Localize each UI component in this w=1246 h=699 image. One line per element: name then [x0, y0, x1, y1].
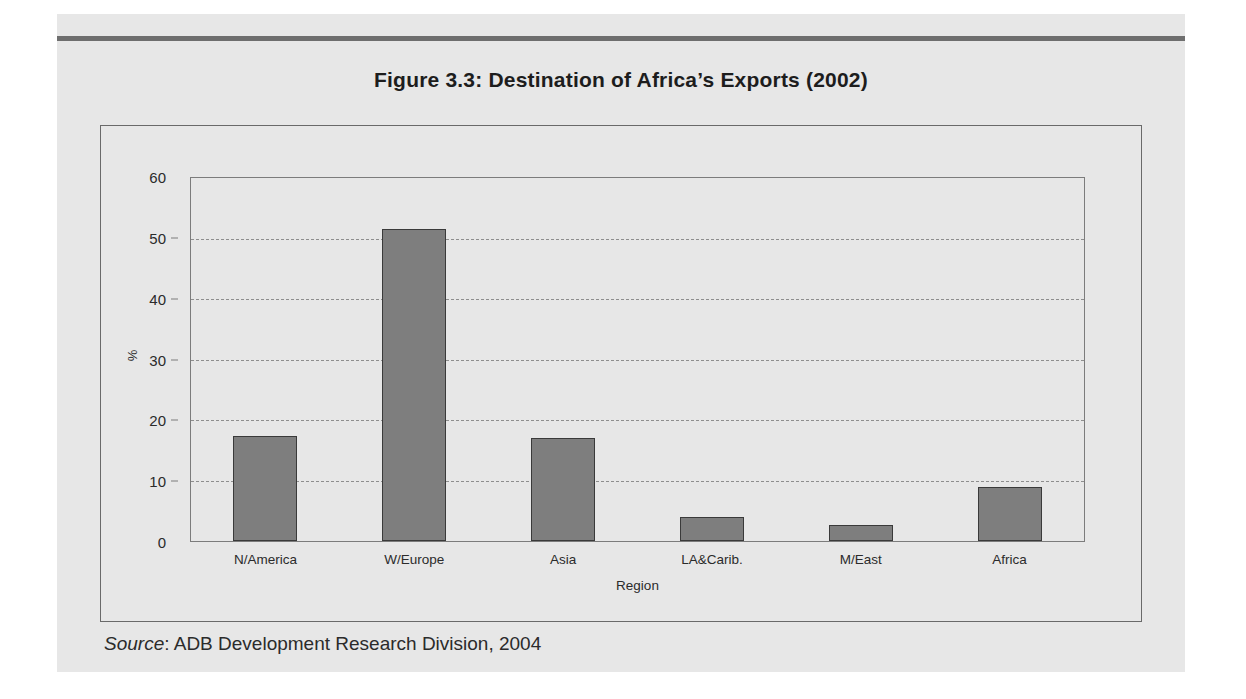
y-axis-tick-mark [171, 298, 178, 299]
source-label: Source [104, 633, 164, 654]
bar[interactable] [531, 438, 595, 541]
bar-slot [935, 178, 1084, 541]
y-axis-tick-mark [171, 237, 178, 238]
y-axis-tick-label: 60 [149, 169, 166, 186]
bar-slot [489, 178, 638, 541]
y-axis-tick-label: 50 [149, 229, 166, 246]
source-text: ADB Development Research Division, 2004 [174, 633, 542, 654]
bar-slot [191, 178, 340, 541]
x-axis-tick-label: W/Europe [340, 552, 489, 567]
bar[interactable] [978, 487, 1042, 541]
y-axis-title: % [125, 350, 140, 362]
y-axis-tick-label: 10 [149, 473, 166, 490]
x-axis-tick-labels: N/AmericaW/EuropeAsiaLA&Carib.M/EastAfri… [191, 552, 1084, 567]
source-separator: : [164, 633, 174, 654]
y-axis-tick-label: 20 [149, 412, 166, 429]
bar[interactable] [829, 525, 893, 541]
x-axis-tick-label: LA&Carib. [637, 552, 786, 567]
x-axis-tick-label: Africa [935, 552, 1084, 567]
bar-series [191, 178, 1084, 541]
bar[interactable] [233, 436, 297, 541]
top-horizontal-rule [57, 36, 1185, 41]
x-axis-tick-label: N/America [191, 552, 340, 567]
source-caption: Source: ADB Development Research Divisio… [104, 633, 541, 655]
y-axis-tick-mark [171, 359, 178, 360]
bar[interactable] [680, 517, 744, 541]
y-axis-tick-mark [171, 481, 178, 482]
bar-slot [637, 178, 786, 541]
y-axis-tick-label: 0 [158, 534, 166, 551]
y-axis-tick-label: 40 [149, 290, 166, 307]
x-axis-tick-label: M/East [786, 552, 935, 567]
page-title: Figure 3.3: Destination of Africa’s Expo… [57, 68, 1185, 92]
bar-slot [340, 178, 489, 541]
x-axis-tick-label: Asia [489, 552, 638, 567]
bar[interactable] [382, 229, 446, 541]
y-axis-tick-mark [171, 420, 178, 421]
y-axis-tick-label: 30 [149, 351, 166, 368]
x-axis-title: Region [191, 578, 1084, 593]
bar-slot [786, 178, 935, 541]
